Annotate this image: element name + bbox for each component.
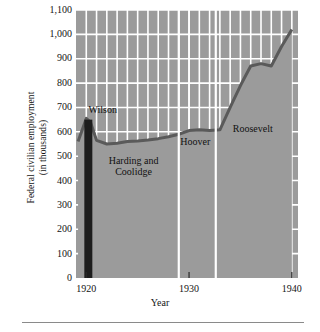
y-tick-400: 400 (36, 176, 72, 186)
footer-rule (22, 322, 304, 323)
y-tick-200: 200 (36, 224, 72, 234)
annotation-roosevelt: Roosevelt (233, 124, 273, 136)
annotation-harding-coolidge: Harding and Coolidge (109, 154, 159, 177)
y-tick-800: 800 (36, 78, 72, 88)
y-tick-1000: 1,000 (36, 29, 72, 39)
annotation-harding-line1: Harding and (109, 154, 159, 165)
y-tick-700: 700 (36, 102, 72, 112)
x-tick-1930: 1930 (167, 283, 211, 295)
y-tick-500: 500 (36, 151, 72, 161)
chart-figure: Federal civilian employment (in thousand… (0, 0, 320, 332)
annotation-hoover: Hoover (180, 136, 210, 148)
annotation-wilson: Wilson (88, 104, 117, 116)
x-axis-title: Year (130, 297, 190, 309)
annotation-harding-line2: Coolidge (115, 166, 152, 177)
y-tick-0: 0 (36, 273, 72, 283)
highlight-bar-1920 (84, 120, 92, 278)
plot-area: Wilson Harding and Coolidge Hoover Roose… (76, 10, 298, 278)
y-tick-300: 300 (36, 200, 72, 210)
y-tick-1100: 1,100 (36, 5, 72, 15)
x-tick-1940: 1940 (270, 283, 314, 295)
y-tick-900: 900 (36, 53, 72, 63)
x-tick-1920: 1920 (64, 283, 108, 295)
y-tick-100: 100 (36, 249, 72, 259)
y-tick-600: 600 (36, 127, 72, 137)
